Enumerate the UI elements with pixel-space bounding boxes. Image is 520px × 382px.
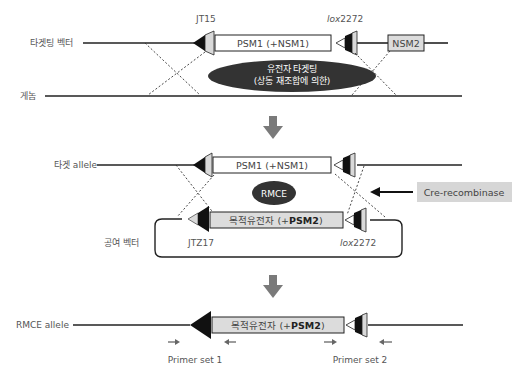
genome-label: 게놈: [20, 91, 36, 101]
target-jt15-site-icon: [193, 153, 212, 177]
stage-3-rmce-allele: RMCE allele 목적유전자 (+PSM2) Primer set 1 P…: [16, 311, 463, 365]
stage-2-rmce: 타겟 allele PSM1 (+NSM1) RMCE Cre-: [54, 153, 512, 257]
rmce-jtz-site-icon: [190, 311, 211, 339]
donor-cassette-label: 목적유전자 (+PSM2): [229, 215, 322, 226]
psm1-cassette-label: PSM1 (+NSM1): [237, 38, 309, 49]
crossover-lines-left: [145, 43, 205, 95]
rmce-allele-label: RMCE allele: [16, 320, 69, 330]
donor-lox2272-label: lox2272: [340, 238, 376, 248]
jt15-site-icon: [193, 31, 214, 55]
gene-targeting-line2: (상동 재조합에 의한): [254, 76, 331, 86]
step-arrow-down-2-icon: [263, 275, 283, 298]
stage-1-gene-targeting: 타겟팅 벡터 JT15 PSM1 (+NSM1) lox2272 NSM2: [20, 14, 462, 101]
primer-set-1-arrows-icon: [168, 339, 236, 345]
target-allele-label: 타겟 allele: [54, 160, 97, 170]
jt15-label: JT15: [195, 14, 216, 24]
gene-targeting-line1: 유전자 타겟팅: [267, 64, 318, 74]
rmce-cassette-label: 목적유전자 (+PSM2): [231, 320, 324, 331]
primer-set-2-label: Primer set 2: [333, 355, 388, 365]
donor-vector-label: 공여 벡터: [104, 237, 139, 248]
lox2272-site-icon: [336, 31, 357, 55]
cre-arrow-head-icon: [370, 187, 380, 197]
cre-recombinase-label: Cre-recombinase: [424, 187, 505, 198]
nsm2-label: NSM2: [392, 38, 419, 49]
target-psm1-cassette-label: PSM1 (+NSM1): [236, 160, 308, 171]
rmce-label: RMCE: [261, 189, 287, 199]
jtz17-label: JTZ17: [187, 238, 214, 248]
target-lox2272-site-icon: [334, 153, 355, 177]
step-arrow-down-1-icon: [263, 116, 283, 139]
rmce-diagram: 타겟팅 벡터 JT15 PSM1 (+NSM1) lox2272 NSM2: [0, 0, 520, 382]
targeting-vector-label: 타겟팅 벡터: [30, 38, 73, 48]
rmce-lox2272-site-icon: [346, 313, 367, 337]
lox2272-label: lox2272: [327, 14, 363, 24]
jtz17-site-icon: [188, 206, 209, 232]
primer-set-2-arrows-icon: [324, 339, 392, 345]
primer-set-1-label: Primer set 1: [168, 355, 223, 365]
